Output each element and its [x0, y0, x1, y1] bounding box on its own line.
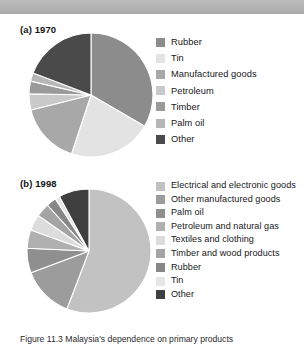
legend-swatch-icon	[156, 263, 165, 272]
legend-label: Other	[171, 289, 194, 300]
legend-label: Petroleum	[171, 85, 214, 97]
legend-label: Manufactured goods	[171, 68, 257, 80]
legend-swatch-icon	[156, 236, 165, 245]
legend-label: Tin	[171, 275, 183, 286]
legend-item: Rubber	[156, 262, 304, 273]
legend-swatch-icon	[156, 119, 165, 128]
figure-caption: Figure 11.3 Malaysia's dependence on pri…	[20, 334, 300, 344]
legend-label: Rubber	[171, 36, 202, 48]
legend-item: Petroleum	[156, 83, 302, 99]
top-gray-banner	[0, 0, 304, 14]
legend-swatch-icon	[156, 277, 165, 286]
legend-label: Textiles and clothing	[171, 234, 254, 245]
legend-item: Timber	[156, 99, 302, 115]
legend-swatch-icon	[156, 70, 165, 79]
legend-label: Other	[171, 133, 195, 145]
legend-swatch-icon	[156, 54, 165, 63]
pie-chart-1998	[26, 188, 152, 314]
legend-item: Tin	[156, 275, 304, 286]
legend-item: Rubber	[156, 34, 302, 50]
legend-1970: RubberTinManufactured goodsPetroleumTimb…	[156, 34, 302, 147]
legend-swatch-icon	[156, 249, 165, 258]
legend-label: Palm oil	[171, 207, 204, 218]
legend-item: Petroleum and natural gas	[156, 221, 304, 232]
legend-item: Other	[156, 289, 304, 300]
legend-label: Rubber	[171, 262, 201, 273]
legend-item: Textiles and clothing	[156, 234, 304, 245]
legend-swatch-icon	[156, 222, 165, 231]
legend-item: Other	[156, 131, 302, 147]
legend-label: Timber and wood products	[171, 248, 280, 259]
legend-swatch-icon	[156, 38, 165, 47]
legend-swatch-icon	[156, 86, 165, 95]
legend-swatch-icon	[156, 182, 165, 191]
legend-label: Other manufactured goods	[171, 194, 280, 205]
legend-label: Palm oil	[171, 117, 204, 129]
legend-item: Electrical and electronic goods	[156, 180, 304, 191]
chart-panel-1970: (a) 1970 RubberTinManufactured goodsPetr…	[0, 16, 304, 172]
legend-label: Electrical and electronic goods	[171, 180, 296, 191]
legend-swatch-icon	[156, 135, 165, 144]
legend-item: Palm oil	[156, 115, 302, 131]
legend-label: Timber	[171, 101, 200, 113]
pie-svg-1998	[26, 188, 152, 314]
legend-item: Tin	[156, 50, 302, 66]
legend-item: Palm oil	[156, 207, 304, 218]
legend-item: Timber and wood products	[156, 248, 304, 259]
pie-svg-1970	[28, 32, 154, 158]
legend-item: Other manufactured goods	[156, 194, 304, 205]
legend-1998: Electrical and electronic goodsOther man…	[156, 180, 304, 302]
legend-swatch-icon	[156, 290, 165, 299]
chart-panel-1998: (b) 1998 Electrical and electronic goods…	[0, 172, 304, 324]
pie-chart-1970	[28, 32, 154, 158]
legend-swatch-icon	[156, 209, 165, 218]
legend-label: Tin	[171, 52, 184, 64]
legend-swatch-icon	[156, 102, 165, 111]
legend-swatch-icon	[156, 195, 165, 204]
legend-label: Petroleum and natural gas	[171, 221, 279, 232]
legend-item: Manufactured goods	[156, 66, 302, 82]
banner-fill	[0, 0, 304, 14]
